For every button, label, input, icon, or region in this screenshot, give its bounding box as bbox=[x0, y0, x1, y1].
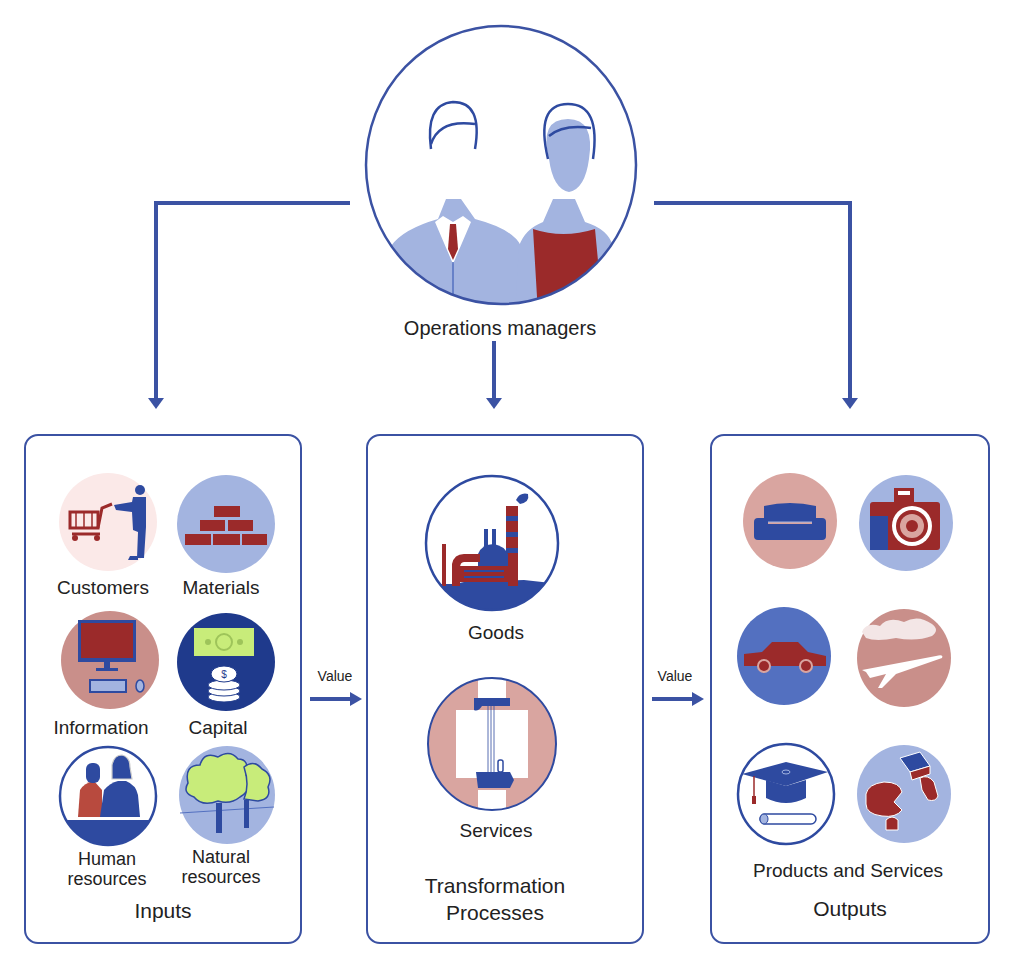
sofa-icon bbox=[742, 472, 838, 570]
value-label-right: Value bbox=[650, 666, 700, 687]
connector-left-vertical bbox=[154, 201, 158, 401]
car-icon bbox=[736, 606, 832, 706]
manager-label: Operations managers bbox=[380, 318, 620, 339]
information-label: Information bbox=[46, 717, 156, 738]
transformation-title-line1: Transformation bbox=[395, 872, 595, 899]
human-resources-label-line1: Human bbox=[52, 849, 162, 869]
goods-label: Goods bbox=[446, 622, 546, 643]
connector-right-vertical bbox=[848, 201, 852, 401]
cheese-food-icon bbox=[856, 744, 952, 844]
money-coins-icon: $ bbox=[176, 612, 276, 712]
trees-icon bbox=[178, 745, 276, 845]
computer-icon bbox=[60, 610, 160, 710]
arrow-down-icon bbox=[148, 398, 164, 409]
connector-right-horizontal bbox=[654, 201, 852, 205]
customer-cart-icon bbox=[58, 472, 158, 572]
products-services-label: Products and Services bbox=[730, 860, 966, 881]
bricks-icon bbox=[176, 474, 276, 574]
services-label: Services bbox=[446, 820, 546, 841]
svg-text:$: $ bbox=[221, 669, 227, 680]
connector-center-vertical bbox=[492, 341, 496, 401]
connector-left-horizontal bbox=[154, 201, 350, 205]
customers-label: Customers bbox=[48, 577, 158, 598]
people-icon bbox=[58, 745, 158, 847]
factory-icon bbox=[424, 474, 560, 612]
transformation-title-line2: Processes bbox=[395, 899, 595, 926]
human-resources-label-line2: resources bbox=[52, 869, 162, 889]
value-arrow-left-shaft bbox=[310, 697, 352, 701]
arrow-right-icon bbox=[692, 692, 704, 706]
handshake-service-icon bbox=[426, 676, 558, 812]
value-arrow-right-shaft bbox=[652, 697, 694, 701]
materials-label: Materials bbox=[166, 577, 276, 598]
airplane-icon bbox=[856, 608, 952, 708]
operations-managers-icon bbox=[363, 24, 639, 309]
camera-icon bbox=[858, 474, 954, 572]
graduation-cap-icon bbox=[736, 742, 836, 846]
arrow-down-icon bbox=[486, 398, 502, 409]
natural-resources-label-line2: resources bbox=[166, 867, 276, 887]
arrow-down-icon bbox=[842, 398, 858, 409]
inputs-title: Inputs bbox=[113, 897, 213, 924]
natural-resources-label-line1: Natural bbox=[166, 847, 276, 867]
arrow-right-icon bbox=[350, 692, 362, 706]
outputs-title: Outputs bbox=[795, 895, 905, 922]
capital-label: Capital bbox=[163, 717, 273, 738]
value-label-left: Value bbox=[310, 666, 360, 687]
